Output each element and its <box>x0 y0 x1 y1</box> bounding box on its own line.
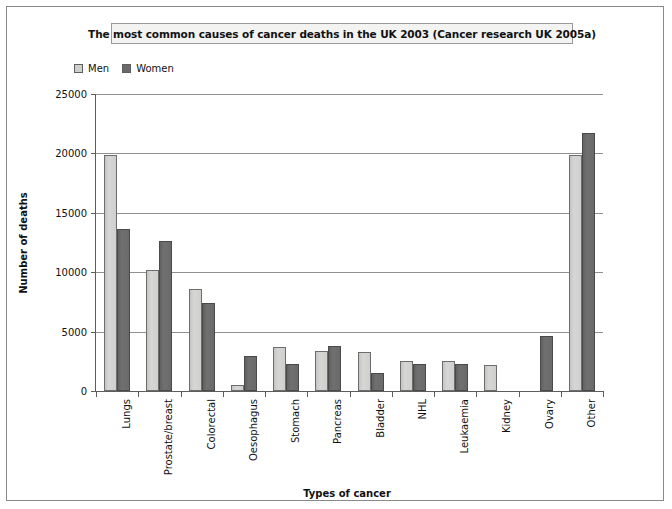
x-axis-tick-label: Lungs <box>121 399 132 429</box>
y-axis-tick-label: 5000 <box>62 326 87 337</box>
bar-men-nhl <box>400 361 413 391</box>
x-axis-tick <box>350 391 351 397</box>
bar-men-stomach <box>273 347 286 391</box>
legend-swatch-women <box>122 64 131 73</box>
x-axis-tick-label: NHL <box>417 399 428 420</box>
bar-group <box>350 94 392 391</box>
bar-group <box>392 94 434 391</box>
bar-group <box>434 94 476 391</box>
bar-men-prostate-breast <box>146 270 159 391</box>
x-axis-tick <box>519 391 520 397</box>
x-axis-tick-label: Oesophagus <box>248 399 259 461</box>
x-axis-tick <box>223 391 224 397</box>
legend-label-men: Men <box>88 63 109 74</box>
bar-men-leukaemia <box>442 361 455 391</box>
x-axis-title: Types of cancer <box>303 488 391 499</box>
bar-men-pancreas <box>315 351 328 391</box>
x-axis-tick-label: Other <box>586 399 597 427</box>
bar-women-pancreas <box>328 346 341 391</box>
legend-item-men: Men <box>74 63 109 74</box>
chart-frame: The most common causes of cancer deaths … <box>6 6 664 501</box>
bar-men-bladder <box>358 352 371 391</box>
legend-item-women: Women <box>122 63 174 74</box>
x-axis-tick <box>392 391 393 397</box>
bar-groups <box>96 94 603 391</box>
y-axis-tick-label: 15000 <box>55 207 87 218</box>
x-axis-tick-label: Colorectal <box>206 399 217 449</box>
bar-group <box>223 94 265 391</box>
page-title: The most common causes of cancer deaths … <box>88 28 596 40</box>
bar-women-other <box>582 133 595 391</box>
bar-women-stomach <box>286 364 299 391</box>
bar-men-colorectal <box>189 289 202 391</box>
bar-women-prostate-breast <box>159 241 172 391</box>
x-axis-tick <box>434 391 435 397</box>
x-axis-tick-label: Bladder <box>375 399 386 438</box>
x-axis-tick <box>561 391 562 397</box>
bar-women-ovary <box>540 336 553 391</box>
x-axis-tick <box>96 391 97 397</box>
y-axis-tick-label: 25000 <box>55 89 87 100</box>
bar-group <box>476 94 518 391</box>
bar-group <box>96 94 138 391</box>
bar-group <box>307 94 349 391</box>
bar-group <box>181 94 223 391</box>
x-axis-tick-label: Leukaemia <box>459 399 470 453</box>
x-axis-tick-label: Stomach <box>290 399 301 443</box>
bar-group <box>561 94 603 391</box>
y-axis-title: Number of deaths <box>18 192 29 294</box>
x-axis-tick-label: Ovary <box>544 399 555 429</box>
bar-men-other <box>569 155 582 391</box>
y-axis-tick-label: 20000 <box>55 148 87 159</box>
bar-women-lungs <box>117 229 130 391</box>
bar-men-oesophagus <box>231 385 244 391</box>
bar-women-colorectal <box>202 303 215 391</box>
y-axis-tick-label: 0 <box>81 386 87 397</box>
bar-women-leukaemia <box>455 364 468 391</box>
bar-group <box>265 94 307 391</box>
y-axis-tick-label: 10000 <box>55 267 87 278</box>
legend-swatch-men <box>74 64 83 73</box>
bar-women-nhl <box>413 364 426 391</box>
x-axis-tick <box>265 391 266 397</box>
bar-men-kidney <box>484 365 497 391</box>
bar-men-lungs <box>104 155 117 391</box>
x-axis-tick <box>138 391 139 397</box>
x-axis-tick <box>476 391 477 397</box>
bar-women-oesophagus <box>244 356 257 391</box>
chart-title-box: The most common causes of cancer deaths … <box>111 23 573 44</box>
legend-label-women: Women <box>136 63 174 74</box>
x-axis-tick <box>603 391 604 397</box>
x-axis-tick-label: Kidney <box>501 399 512 433</box>
bar-group <box>138 94 180 391</box>
bar-group <box>519 94 561 391</box>
x-axis-tick <box>307 391 308 397</box>
chart-legend: Men Women <box>74 63 174 74</box>
plot-area: 0500010000150002000025000 LungsProstate/… <box>95 94 603 392</box>
bar-women-bladder <box>371 373 384 391</box>
x-axis-tick-label: Pancreas <box>332 399 343 444</box>
x-axis-tick-label: Prostate/breast <box>163 399 174 475</box>
x-axis-tick <box>181 391 182 397</box>
